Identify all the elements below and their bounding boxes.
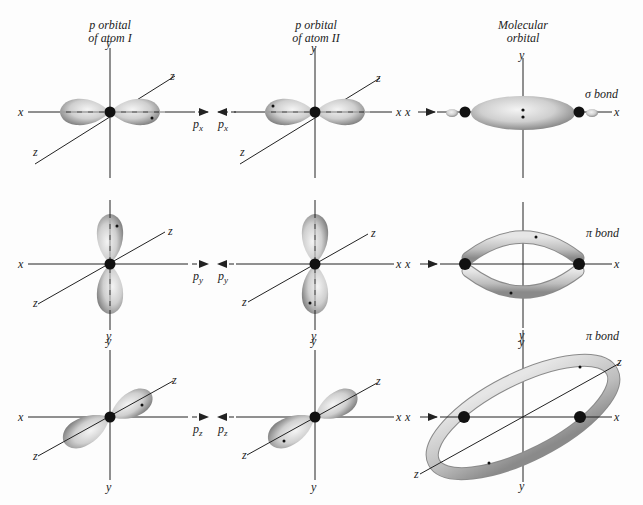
atom1-py (28, 200, 208, 330)
molecular-pi-z (417, 330, 630, 496)
molecular-sigma (418, 58, 612, 178)
svg-text:y: y (105, 334, 112, 348)
label-pi-bond-y: π bond (586, 226, 620, 240)
svg-text:z: z (239, 145, 245, 159)
svg-text:z: z (171, 373, 177, 387)
row-pz (28, 330, 629, 496)
svg-text:y: y (105, 36, 112, 50)
svg-text:x: x (395, 105, 402, 119)
svg-text:z: z (32, 296, 38, 310)
svg-text:z: z (241, 448, 247, 462)
svg-text:x: x (613, 257, 620, 271)
label-py-left: py (192, 269, 203, 285)
label-pi-bond-z: π bond (586, 329, 620, 343)
label-sigma-bond: σ bond (585, 87, 619, 101)
svg-text:z: z (616, 355, 622, 369)
molecular-pi-y (420, 202, 612, 328)
orbital-labels: px px py py pz pz (192, 117, 228, 438)
svg-text:y: y (310, 334, 317, 348)
svg-text:x: x (17, 105, 24, 119)
label-px-left: px (192, 117, 203, 133)
svg-text:x: x (613, 105, 620, 119)
svg-text:z: z (167, 224, 173, 238)
svg-text:x: x (404, 410, 411, 424)
row-px (28, 48, 612, 178)
bond-labels: σ bond π bond π bond (585, 87, 620, 343)
svg-text:x: x (395, 410, 402, 424)
svg-text:z: z (32, 449, 38, 463)
svg-text:y: y (310, 41, 317, 55)
atom2-py (218, 200, 394, 330)
svg-text:x: x (17, 410, 24, 424)
svg-text:y: y (518, 479, 525, 493)
orbital-diagram: y x z z y z z x y x x x z z y z z x y x … (0, 0, 643, 505)
svg-text:y: y (518, 48, 525, 62)
svg-text:y: y (105, 480, 112, 494)
svg-text:x: x (613, 410, 620, 424)
svg-text:z: z (375, 374, 381, 388)
svg-text:x: x (17, 257, 24, 271)
atom1-pz (28, 350, 208, 480)
svg-text:z: z (169, 69, 175, 83)
label-px-right: px (217, 117, 228, 133)
row-py (28, 200, 612, 330)
svg-text:z: z (413, 467, 419, 481)
label-pz-right: pz (217, 422, 228, 438)
svg-text:y: y (518, 335, 525, 349)
svg-text:z: z (370, 226, 376, 240)
svg-text:z: z (241, 295, 247, 309)
atom1-px (28, 48, 208, 178)
svg-text:x: x (404, 257, 411, 271)
svg-text:x: x (404, 105, 411, 119)
label-py-right: py (217, 269, 228, 285)
svg-text:z: z (375, 71, 381, 85)
svg-text:z: z (32, 145, 38, 159)
svg-text:x: x (395, 257, 402, 271)
svg-text:y: y (310, 480, 317, 494)
label-pz-left: pz (192, 422, 203, 438)
